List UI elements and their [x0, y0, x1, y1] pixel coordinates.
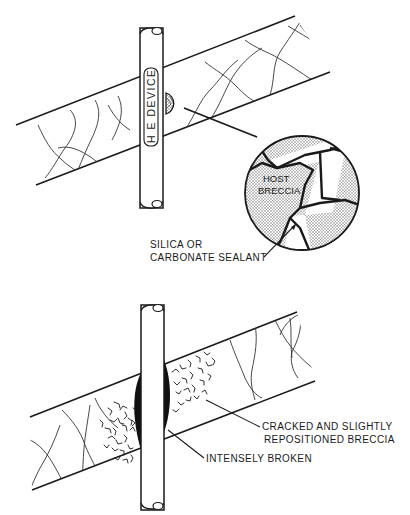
magnify-leader-line [184, 108, 257, 137]
device-label: H E DEVICE [145, 68, 157, 143]
sealant-label-line1: SILICA OR [150, 239, 203, 250]
cracked-leader-line [206, 400, 260, 427]
diagram-canvas: H E DEVICE [0, 0, 410, 515]
host-breccia-label-line2: BRECCIA [258, 185, 301, 196]
he-device-pipe-bottom [141, 305, 164, 511]
sample-location-marker [166, 93, 174, 114]
host-breccia-label-line1: HOST [263, 173, 290, 184]
intensely-broken-zone-left [134, 373, 141, 450]
cracked-texture-right [172, 352, 215, 412]
cracked-label-line2: REPOSITIONED BRECCIA [264, 434, 395, 445]
broken-leader-line [168, 430, 204, 458]
he-device-pipe-top: H E DEVICE [140, 28, 163, 209]
magnified-inset: HOST BRECCIA [245, 128, 362, 252]
bottom-panel: CRACKED AND SLIGHTLY REPOSITIONED BRECCI… [22, 305, 395, 511]
intensely-broken-zone-right [164, 360, 170, 432]
top-panel: H E DEVICE [16, 16, 362, 263]
broken-texture-left [100, 402, 136, 463]
broken-label: INTENSELY BROKEN [206, 453, 312, 464]
cracked-label-line1: CRACKED AND SLIGHTLY [262, 421, 393, 432]
sealant-label-line2: CARBONATE SEALANT [150, 252, 267, 263]
